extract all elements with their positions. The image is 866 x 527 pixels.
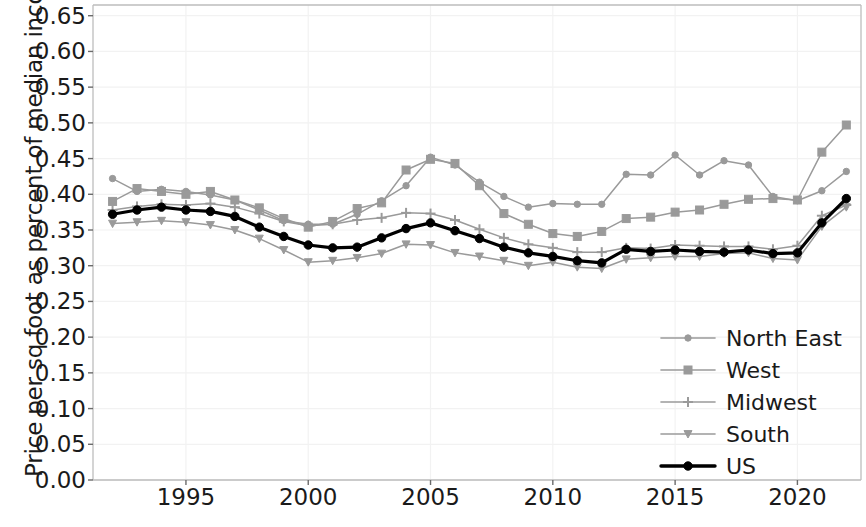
series-midwest [108,199,852,258]
legend-symbol-midwest [661,397,715,407]
legend-label-north-east: North East [726,326,842,351]
line-chart: Price per sq foot as percent of median i… [0,0,866,527]
legend-symbol-south [661,431,715,438]
legend-symbol-us [661,462,715,470]
legend-symbol-north-east [661,335,715,341]
legend-symbols [661,335,715,470]
legend-label-west: West [726,358,780,383]
legend-label-us: US [726,454,756,479]
data-series-layer [108,121,852,273]
plot-area [0,0,866,527]
legend-label-midwest: Midwest [726,390,817,415]
legend-label-south: South [726,422,790,447]
